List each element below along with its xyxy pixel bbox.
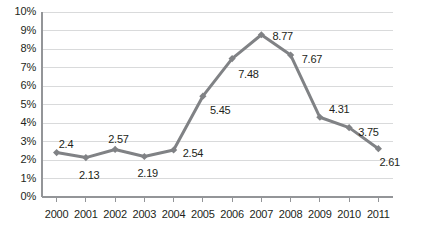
series-line: [57, 35, 379, 158]
y-axis-tick-label: 7%: [0, 62, 36, 73]
y-axis-tick-label: 5%: [0, 99, 36, 110]
y-axis-tick-label: 10%: [0, 6, 36, 17]
y-axis-tick-label: 1%: [0, 173, 36, 184]
data-point-label: 7.67: [302, 54, 323, 65]
data-point-label: 2.61: [379, 157, 400, 168]
y-axis-tick-label: 0%: [0, 191, 36, 202]
data-point-marker: [141, 153, 148, 160]
line-chart: 10%9%8%7%6%5%4%3%2%1%0%20002001200220032…: [0, 0, 423, 236]
data-point-label: 2.19: [137, 168, 158, 179]
y-axis-tick-label: 6%: [0, 80, 36, 91]
y-axis-tick-label: 4%: [0, 117, 36, 128]
data-point-label: 8.77: [272, 31, 293, 42]
y-axis-tick-label: 9%: [0, 25, 36, 36]
data-point-label: 2.54: [183, 148, 204, 159]
y-axis-tick-label: 3%: [0, 136, 36, 147]
data-point-label: 3.75: [358, 127, 379, 138]
data-point-marker: [53, 149, 60, 156]
y-axis-tick-label: 8%: [0, 43, 36, 54]
data-point-marker: [112, 146, 119, 153]
data-point-label: 2.4: [59, 139, 74, 150]
chart-plot-area: [0, 0, 423, 236]
data-point-label: 4.31: [329, 104, 350, 115]
data-point-label: 5.45: [210, 105, 231, 116]
data-point-label: 2.13: [79, 170, 100, 181]
data-point-label: 7.48: [238, 69, 259, 80]
y-axis-tick-label: 2%: [0, 154, 36, 165]
data-point-label: 2.57: [108, 134, 129, 145]
x-axis-tick-label: 2011: [361, 209, 395, 220]
